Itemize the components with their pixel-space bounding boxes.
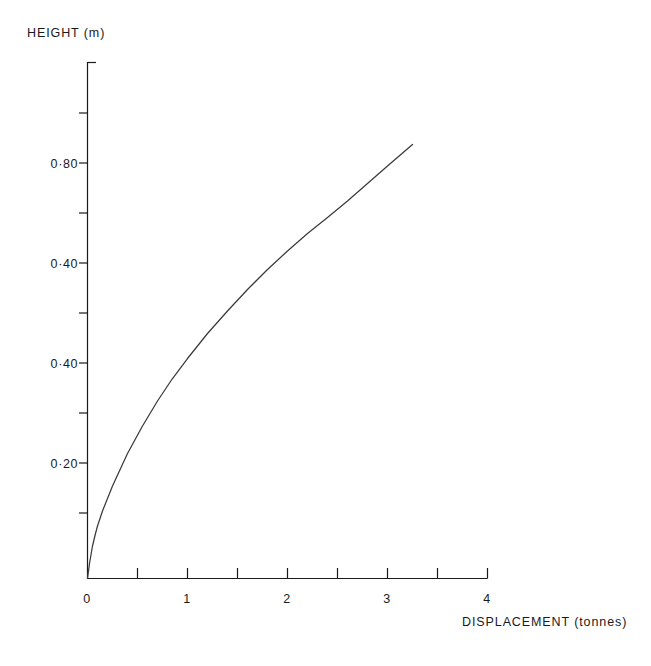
x-axis-ticks xyxy=(138,568,488,579)
caption-sliver xyxy=(88,662,418,666)
data-curve-line xyxy=(88,145,413,579)
chart-figure: HEIGHT (m) DISPLACEMENT (tonnes) 0·80 0·… xyxy=(0,0,651,666)
plot-area xyxy=(0,0,651,666)
